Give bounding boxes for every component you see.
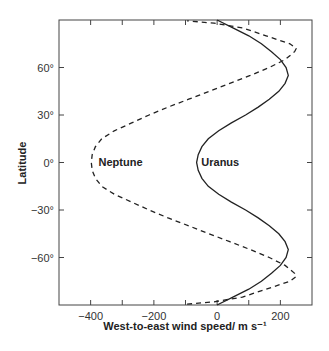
y-axis-tick-labels: 60°30°0°−30°−60° [31, 62, 54, 264]
x-tick-label: 200 [271, 310, 289, 322]
x-tick-label: −400 [78, 310, 103, 322]
y-tick-label: 0° [43, 157, 54, 169]
y-tick-label: 30° [37, 109, 54, 121]
neptune-series-label: Neptune [99, 156, 143, 168]
y-axis-title: Latitude [16, 142, 28, 185]
uranus-series-label: Uranus [201, 156, 239, 168]
plot-frame [59, 20, 312, 305]
y-tick-label: −30° [31, 204, 54, 216]
x-axis-title: West-to-east wind speed/ m s⁻¹ [103, 320, 267, 332]
y-tick-label: 60° [37, 62, 54, 74]
wind-speed-chart: −400−2000200 60°30°0°−30°−60° Neptune Ur… [0, 0, 329, 351]
y-tick-label: −60° [31, 252, 54, 264]
